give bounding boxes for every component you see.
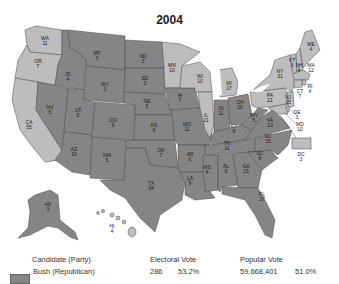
svg-text:MI17: MI17 xyxy=(226,80,232,91)
popular-pct: 51.0% xyxy=(295,267,316,276)
popular-count: 59,668,401 xyxy=(240,267,278,276)
svg-text:RI4: RI4 xyxy=(308,83,313,94)
electoral-count: 286 xyxy=(150,267,163,276)
svg-text:MA12: MA12 xyxy=(307,62,315,73)
svg-text:AZ10: AZ10 xyxy=(71,146,77,157)
svg-text:PA21: PA21 xyxy=(267,92,274,103)
svg-text:IN11: IN11 xyxy=(218,105,223,116)
header-popular-vote: Popular Vote xyxy=(240,255,283,264)
candidate-name: Bush (Republican) xyxy=(33,267,95,276)
state-fl[interactable] xyxy=(222,187,275,238)
svg-text:WI10: WI10 xyxy=(197,73,203,84)
state-hi[interactable] xyxy=(97,209,136,237)
svg-text:VA13: VA13 xyxy=(267,117,274,128)
header-electoral-vote: Electoral Vote xyxy=(150,255,196,264)
republican-swatch xyxy=(10,274,30,284)
state-ct[interactable] xyxy=(294,80,302,88)
state-ri[interactable] xyxy=(302,80,306,85)
header-candidate: Candidate (Party) xyxy=(32,255,91,264)
svg-text:DE3: DE3 xyxy=(294,109,302,120)
svg-text:DC3: DC3 xyxy=(297,151,305,162)
electoral-pct: 53.2% xyxy=(178,267,199,276)
state-ar[interactable] xyxy=(178,145,205,172)
electoral-map: WA11 OR7 CA55 ID4 NV5 MT3 WY3 UT5 CO9 AZ… xyxy=(0,0,339,250)
svg-text:NJ15: NJ15 xyxy=(285,94,292,105)
svg-text:HI4: HI4 xyxy=(110,223,115,234)
svg-text:FL27: FL27 xyxy=(259,191,265,202)
state-ak[interactable] xyxy=(18,190,78,240)
svg-text:CT7: CT7 xyxy=(297,88,304,99)
svg-text:MD10: MD10 xyxy=(296,121,304,132)
state-dc-box[interactable] xyxy=(292,138,311,149)
